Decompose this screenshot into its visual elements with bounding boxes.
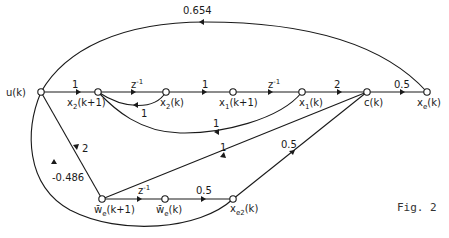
arrow-wek1-wek xyxy=(137,196,142,202)
edge-xe2-c xyxy=(233,92,367,199)
label-x1k1: x1(k+1) xyxy=(219,97,258,111)
gain-x2k-x1k1: 1 xyxy=(202,79,208,90)
figure-caption: Fig. 2 xyxy=(397,201,437,214)
node-xe xyxy=(424,89,430,95)
gain-c-wek1: 1 xyxy=(220,142,226,153)
gain-u-x2k1: 1 xyxy=(72,79,78,90)
gain-x2k-x2k1: 1 xyxy=(141,108,147,119)
gain-xe2-c: 0.5 xyxy=(281,139,297,150)
arrow-xe-u xyxy=(199,19,204,25)
gain-wek-xe2: 0.5 xyxy=(196,185,212,196)
arrow-x2k-x2k1 xyxy=(133,102,138,108)
node-x2k xyxy=(163,89,169,95)
label-u: u(k) xyxy=(6,87,26,98)
arrow-xe2-u xyxy=(51,159,57,164)
node-u xyxy=(38,89,44,95)
label-xe: xe(k) xyxy=(417,97,441,111)
node-x1k xyxy=(299,89,305,95)
node-x2k1 xyxy=(95,89,101,95)
gain-c-xe: 0.5 xyxy=(394,79,410,90)
gain-x2k1-x2k: z-1 xyxy=(131,78,143,90)
label-c: c(k) xyxy=(364,97,383,108)
edge-xe-u xyxy=(41,22,427,92)
gain-wek1-wek: z-1 xyxy=(138,184,150,196)
label-x2k1: x2(k+1) xyxy=(67,97,106,111)
gain-u-wek1: 2 xyxy=(82,143,88,154)
label-x1k: x1(k) xyxy=(299,97,323,111)
signal-flow-graph: u(k) x2(k+1) x2(k) x1(k+1) x1(k) c(k) xe… xyxy=(0,0,449,238)
node-x1k1 xyxy=(230,89,236,95)
label-xe2: xe2(k) xyxy=(230,203,258,217)
gain-x1k1-x1k: z-1 xyxy=(268,78,280,90)
label-wek1: w̄e(k+1) xyxy=(94,204,135,218)
node-c xyxy=(364,89,370,95)
node-wek1 xyxy=(99,196,105,202)
edge-x1k-x2k1 xyxy=(98,92,302,133)
gain-xe-u: 0.654 xyxy=(183,5,212,16)
label-x2k: x2(k) xyxy=(160,97,184,111)
node-xe2 xyxy=(230,196,236,202)
node-wek xyxy=(162,196,168,202)
label-wek: w̄e(k) xyxy=(156,204,182,218)
gain-x1k-x2k1: 1 xyxy=(213,118,219,129)
gain-xe2-u: -0.486 xyxy=(52,172,84,183)
arrow-x1k-x2k1 xyxy=(214,129,219,135)
arrow-wek-xe2 xyxy=(201,196,206,202)
gain-x1k-c: 2 xyxy=(334,79,340,90)
